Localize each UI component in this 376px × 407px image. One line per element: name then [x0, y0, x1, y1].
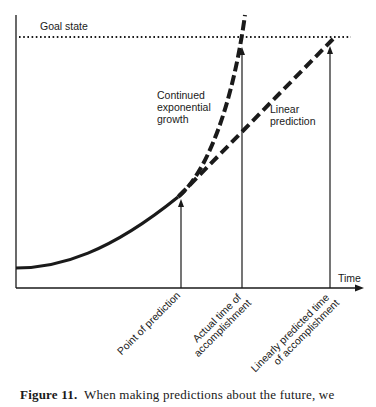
- linear-label: Linear prediction: [270, 103, 316, 127]
- point-of-prediction-label: Point of prediction: [114, 289, 182, 357]
- caption-number: Figure 11.: [20, 387, 77, 402]
- time-axis-label: Time: [338, 272, 361, 284]
- x-axis-arrowhead-icon: [355, 285, 364, 292]
- growth-prediction-diagram: Goal state Continued exponential growth …: [0, 0, 376, 407]
- figure-caption: Figure 11. When making predictions about…: [20, 387, 334, 403]
- actual-time-label: Actual time of accomplishment: [183, 289, 253, 359]
- caption-text: When making predictions about the future…: [84, 387, 334, 402]
- exponential-label: Continued exponential growth: [157, 89, 214, 125]
- goal-state-label: Goal state: [40, 20, 88, 32]
- linear-time-label: Linearly predicted time of accomplishmen…: [248, 289, 341, 382]
- observed-growth-curve: [16, 197, 178, 268]
